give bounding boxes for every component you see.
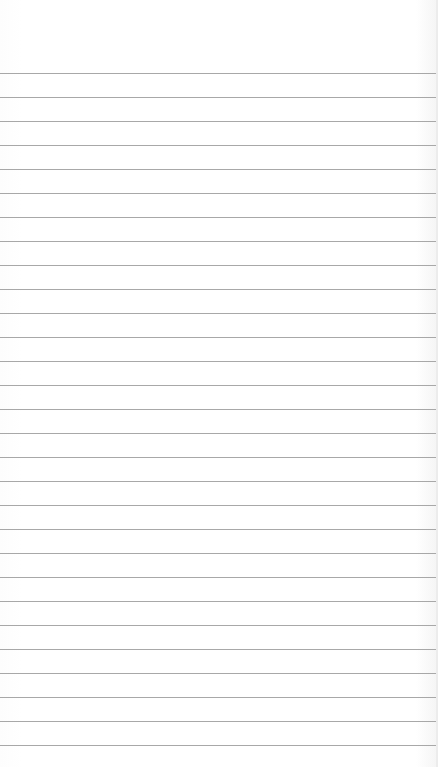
ruled-line — [0, 169, 436, 170]
ruled-line — [0, 361, 436, 362]
ruled-line — [0, 313, 436, 314]
ruled-line — [0, 673, 436, 674]
ruled-line — [0, 241, 436, 242]
ruled-line — [0, 97, 436, 98]
ruled-line — [0, 721, 436, 722]
ruled-line — [0, 217, 436, 218]
ruled-line — [0, 265, 436, 266]
ruled-line — [0, 433, 436, 434]
ruled-line — [0, 649, 436, 650]
ruled-line — [0, 577, 436, 578]
ruled-line — [0, 457, 436, 458]
ruled-line — [0, 745, 436, 746]
ruled-line — [0, 697, 436, 698]
ruled-line — [0, 601, 436, 602]
ruled-line — [0, 529, 436, 530]
ruled-line — [0, 145, 436, 146]
ruled-line — [0, 385, 436, 386]
ruled-line — [0, 625, 436, 626]
ruled-line — [0, 505, 436, 506]
ruled-line — [0, 553, 436, 554]
ruled-line — [0, 193, 436, 194]
ruled-line — [0, 409, 436, 410]
ruled-line — [0, 73, 436, 74]
lined-paper — [0, 0, 438, 767]
ruled-line — [0, 289, 436, 290]
ruled-line — [0, 121, 436, 122]
ruled-line — [0, 337, 436, 338]
ruled-line — [0, 481, 436, 482]
